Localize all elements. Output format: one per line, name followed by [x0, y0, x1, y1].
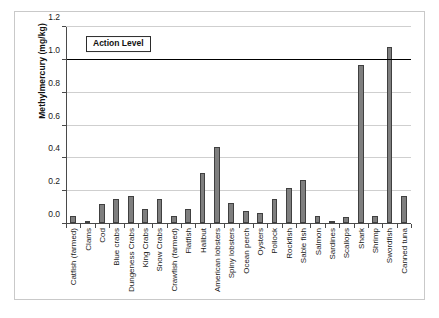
x-label-slot: Shark [354, 228, 368, 310]
bar [185, 209, 191, 223]
x-label-slot: King Crabs [138, 228, 152, 310]
bar [99, 204, 105, 223]
x-label-slot: Shrimp [368, 228, 382, 310]
x-axis-label: Shark [357, 228, 366, 249]
bar [70, 216, 76, 223]
y-tick-label: 0.8 [48, 78, 60, 88]
x-axis-label: Canned tuna [400, 228, 409, 274]
x-label-slot: Clams [80, 228, 94, 310]
x-label-slot: Halibut [195, 228, 209, 310]
x-axis-label: Pollock [270, 228, 279, 254]
y-tick-label: 1.0 [48, 45, 60, 55]
x-axis-label: Swordfish [385, 228, 394, 263]
y-axis-line [66, 27, 67, 224]
x-axis-label: Spiny lobsters [227, 228, 236, 278]
x-label-slot: Rockfish [282, 228, 296, 310]
bar [286, 188, 292, 223]
y-tick-label: 0.2 [48, 176, 60, 186]
x-axis-label: Cod [98, 228, 107, 243]
x-label-slot: Scallops [339, 228, 353, 310]
x-axis-label: Crawfish (farmed) [170, 228, 179, 292]
x-axis-label: King Crabs [141, 228, 150, 268]
x-axis-labels: Catfish (farmed)ClamsCodBlue crabsDungen… [66, 224, 411, 310]
bar [157, 199, 163, 223]
action-level-line [66, 59, 411, 60]
x-label-slot: Blue crabs [109, 228, 123, 310]
x-label-slot: Swordfish [382, 228, 396, 310]
bar [387, 47, 393, 223]
x-label-slot: Crawfish (farmed) [167, 228, 181, 310]
bar [272, 199, 278, 223]
y-axis-title: Methylmercury (mg/kg) [37, 0, 47, 146]
bar [358, 65, 364, 223]
action-level-label: Action Level [86, 36, 151, 52]
x-label-slot: Spiny lobsters [224, 228, 238, 310]
x-label-slot: Flatfish [181, 228, 195, 310]
y-tick-label: 1.2 [48, 12, 60, 22]
x-axis-label: Halibut [199, 228, 208, 253]
bar [113, 199, 119, 223]
x-axis-label: Catfish (farmed) [69, 228, 78, 285]
gridline [66, 26, 411, 27]
x-tick-mark [411, 224, 412, 228]
x-label-slot: Cod [95, 228, 109, 310]
x-label-slot: Snow Crabs [152, 228, 166, 310]
x-label-slot: Pollock [267, 228, 281, 310]
x-axis-label: Rockfish [285, 228, 294, 259]
x-axis-label: Ocean perch [242, 228, 251, 274]
x-label-slot: American lobsters [210, 228, 224, 310]
plot-inner: 0.00.20.40.60.81.01.2 Action Level [66, 27, 411, 224]
x-axis-label: Scallops [342, 228, 351, 258]
y-tick-label: 0.6 [48, 111, 60, 121]
x-axis-label: Sardines [328, 228, 337, 260]
plot-area: 0.00.20.40.60.81.01.2 Action Level [66, 27, 411, 224]
x-axis-label: Flatfish [184, 228, 193, 254]
x-axis-label: Sable fish [299, 228, 308, 263]
bar [300, 180, 306, 223]
x-axis-label: Oysters [256, 228, 265, 256]
x-label-slot: Ocean perch [239, 228, 253, 310]
x-label-slot: Canned tuna [397, 228, 411, 310]
x-axis-label: American lobsters [213, 228, 222, 292]
bar [128, 196, 134, 223]
y-tick-label: 0.4 [48, 143, 60, 153]
x-label-slot: Dungeness Crabs [124, 228, 138, 310]
x-label-slot: Sardines [325, 228, 339, 310]
x-label-slot: Salmon [310, 228, 324, 310]
bar [315, 216, 321, 223]
x-axis-label: Dungeness Crabs [127, 228, 136, 292]
bar [401, 196, 407, 223]
bar [372, 216, 378, 223]
bar [171, 216, 177, 223]
x-label-slot: Catfish (farmed) [66, 228, 80, 310]
bar [243, 211, 249, 223]
x-label-slot: Sable fish [296, 228, 310, 310]
bar [257, 213, 263, 223]
bar [200, 173, 206, 223]
bar [228, 203, 234, 223]
chart-frame: Methylmercury (mg/kg) 0.00.20.40.60.81.0… [14, 11, 425, 300]
x-axis-label: Salmon [314, 228, 323, 255]
y-tick-label: 0.0 [48, 209, 60, 219]
bar [214, 147, 220, 223]
x-axis-label: Snow Crabs [155, 228, 164, 272]
x-axis-label: Clams [84, 228, 93, 251]
x-axis-label: Shrimp [371, 228, 380, 253]
bar [142, 209, 148, 223]
x-label-slot: Oysters [253, 228, 267, 310]
x-axis-label: Blue crabs [112, 228, 121, 266]
